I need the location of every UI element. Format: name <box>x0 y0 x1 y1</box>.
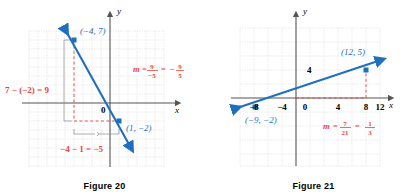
slope-equals-1: = <box>333 121 338 131</box>
figure-21-caption: Figure 21 <box>209 181 418 191</box>
run-annotation: −4 − 1 = −5 <box>60 144 104 154</box>
slope-denominator-2: 3 <box>368 129 372 137</box>
point-label-b: (−9, −2) <box>245 115 277 125</box>
slope-denominator-1: −5 <box>148 72 156 80</box>
x-tick-label: 8 <box>364 102 369 112</box>
data-point-marker <box>72 38 77 43</box>
slope-annotation: m = 7 21 = 1 3 <box>323 120 375 137</box>
point-label-a: (−4, 7) <box>80 26 106 36</box>
figures-sheet: (−4, 7) (1, −2) x y 0 7 − (−2) = 9 −4 − … <box>0 0 418 194</box>
x-tick-label: 4 <box>336 102 341 112</box>
figure-20-plot: (−4, 7) (1, −2) x y 0 7 − (−2) = 9 −4 − … <box>0 0 209 170</box>
slope-denominator-2: 5 <box>178 72 182 80</box>
slope-m: m <box>133 64 140 74</box>
data-point-marker <box>364 68 369 73</box>
slope-equals-2: = <box>355 121 360 131</box>
x-tick-label: −8 <box>249 102 259 112</box>
y-tick-label: 4 <box>307 65 312 75</box>
slope-annotation: m = 9 −5 = − 9 5 <box>133 63 184 80</box>
figure-20-caption: Figure 20 <box>0 181 209 191</box>
plotted-line <box>66 31 131 148</box>
y-axis-label: y <box>116 6 121 16</box>
slope-numerator-1: 9 <box>150 63 154 71</box>
data-point-marker <box>117 119 122 124</box>
measure-brackets <box>64 40 119 136</box>
x-tick-label: 0 <box>303 102 308 112</box>
x-axis-label: x <box>174 105 179 115</box>
axes <box>231 14 391 166</box>
x-tick-label: 12 <box>376 102 386 112</box>
slope-sign: − <box>170 64 175 74</box>
x-axis-label: x <box>388 100 393 110</box>
x-tick-labels: −8 −4 0 4 8 12 <box>249 102 385 112</box>
slope-numerator-1: 7 <box>343 120 347 128</box>
slope-equals-1: = <box>142 64 147 74</box>
slope-numerator-2: 1 <box>368 120 372 128</box>
slope-denominator-1: 21 <box>342 129 350 137</box>
rise-run-guides <box>74 40 119 121</box>
rise-annotation: 7 − (−2) = 9 <box>5 85 49 95</box>
origin-label: 0 <box>101 105 106 115</box>
figure-21-plot: (12, 5) (−9, −2) x y −8 −4 0 4 8 12 4 m … <box>209 0 418 170</box>
figure-21-panel: (12, 5) (−9, −2) x y −8 −4 0 4 8 12 4 m … <box>209 0 418 194</box>
figure-20-panel: (−4, 7) (1, −2) x y 0 7 − (−2) = 9 −4 − … <box>0 0 209 194</box>
y-axis-label: y <box>302 6 307 16</box>
slope-numerator-2: 9 <box>178 63 182 71</box>
point-label-a: (12, 5) <box>341 47 365 57</box>
point-label-b: (1, −2) <box>126 123 152 133</box>
x-tick-label: −4 <box>277 102 287 112</box>
slope-equals-2: = <box>161 64 166 74</box>
slope-m: m <box>323 121 330 131</box>
